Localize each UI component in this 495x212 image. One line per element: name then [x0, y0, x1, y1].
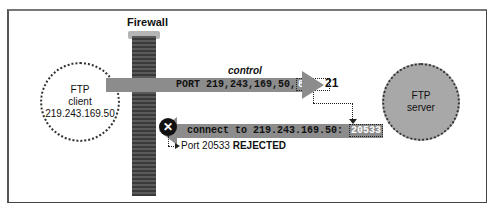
- connector-line: [313, 103, 353, 104]
- port-21-label: 21: [325, 76, 338, 90]
- control-arrow: PORT 219,243,169,50,80,53: [106, 78, 302, 92]
- rejected-arrow-icon: [175, 143, 180, 149]
- blocked-icon: ✕: [159, 118, 177, 136]
- ftp-client-node: FTP client 219.243.169.50: [40, 62, 120, 142]
- rejected-port: Port 20533: [181, 140, 233, 151]
- rejected-connector: [168, 136, 169, 146]
- connect-command-text: connect to 219.243.169.50:: [187, 125, 349, 136]
- data-arrow: connect to 219.243.169.50: 20533: [175, 124, 383, 138]
- ftp-server-node: FTP server: [382, 63, 460, 141]
- connect-command-highlight: 20533: [349, 124, 383, 137]
- firewall-wall: [132, 36, 156, 196]
- client-line2: client: [68, 96, 91, 108]
- firewall-label: Firewall: [127, 16, 168, 28]
- control-label: control: [228, 65, 262, 76]
- port-command: PORT 219,243,169,50,80,53: [106, 78, 302, 92]
- rejected-status: REJECTED: [233, 140, 286, 151]
- server-line1: FTP: [412, 90, 431, 102]
- client-line1: FTP: [71, 84, 90, 96]
- rejected-label: Port 20533 REJECTED: [181, 140, 286, 151]
- client-ip: 219.243.169.50: [45, 108, 115, 120]
- connector-line: [313, 92, 314, 103]
- server-line2: server: [407, 102, 435, 114]
- port-command-text: PORT 219,243,169,50,: [176, 79, 296, 90]
- connect-command: connect to 219.243.169.50: 20533: [175, 124, 383, 138]
